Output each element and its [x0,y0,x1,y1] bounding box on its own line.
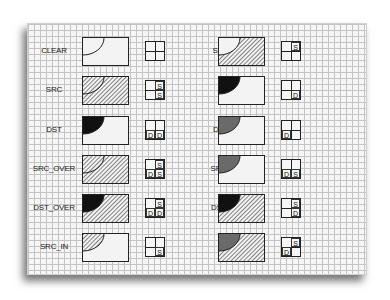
quadrant-br: D [291,208,300,217]
quadrant-br: S [155,247,164,256]
quadrant-bl: D [146,208,155,217]
quadrant-br [291,51,300,60]
region-quadrant-icon: D [281,120,301,140]
quadrant-br: D [291,90,300,99]
region-quadrant-icon: S [145,237,165,257]
quadrant-tr: S [155,160,164,169]
rule-label: SRC [30,85,78,94]
region-quadrant-icon: DD [145,120,165,140]
quadrant-br: D [155,208,164,217]
quadrant-tl [282,238,291,247]
region-quadrant-icon: SS [145,80,165,100]
rule-label: DST_OVER [30,203,78,212]
quadrant-tr [291,160,300,169]
composite-preview [218,155,265,184]
quadrant-tl [282,42,291,51]
quadrant-tr: S [155,81,164,90]
quadrant-bl [146,247,155,256]
composite-preview [82,37,129,66]
rule-label: SRC_IN [30,242,78,251]
quadrant-bl: D [282,169,291,178]
region-quadrant-icon: SD [281,237,301,257]
region-quadrant-icon [145,41,165,61]
quadrant-tl [146,42,155,51]
quadrant-br: D [155,130,164,139]
quadrant-bl: D [146,169,155,178]
quadrant-tl [146,81,155,90]
quadrant-tr: S [291,42,300,51]
quadrant-bl: D [282,247,291,256]
rule-label: DST [30,125,78,134]
composite-preview [218,116,265,145]
diagram-board [27,23,367,275]
composite-preview [82,76,129,105]
quadrant-tl [146,160,155,169]
quadrant-bl [146,51,155,60]
quadrant-bl [282,208,291,217]
region-quadrant-icon: D [281,80,301,100]
quadrant-tl [282,199,291,208]
rule-label: CLEAR [30,46,78,55]
quadrant-br: S [291,169,300,178]
quadrant-tr: S [291,238,300,247]
quadrant-tl [282,121,291,130]
quadrant-tl [282,81,291,90]
region-quadrant-icon: SDS [145,159,165,179]
region-quadrant-icon: S [281,41,301,61]
quadrant-bl [146,90,155,99]
quadrant-bl: D [146,130,155,139]
quadrant-tr [155,42,164,51]
quadrant-tr [155,121,164,130]
region-quadrant-icon: DS [281,159,301,179]
quadrant-tr [291,81,300,90]
quadrant-tl [146,199,155,208]
composite-preview [82,233,129,262]
composite-preview [218,37,265,66]
quadrant-br [291,247,300,256]
composite-preview [82,155,129,184]
region-quadrant-icon: SDD [145,198,165,218]
quadrant-tr: S [291,199,300,208]
quadrant-br: S [155,169,164,178]
quadrant-bl: D [282,130,291,139]
quadrant-br [155,51,164,60]
quadrant-tl [146,121,155,130]
composite-preview [82,194,129,223]
quadrant-br: S [155,90,164,99]
composite-preview [218,194,265,223]
composite-preview [82,116,129,145]
quadrant-bl [282,51,291,60]
quadrant-bl [282,90,291,99]
region-quadrant-icon: SD [281,198,301,218]
quadrant-tr [291,121,300,130]
quadrant-tl [282,160,291,169]
quadrant-tr [155,238,164,247]
quadrant-tl [146,238,155,247]
rule-label: SRC_OVER [30,164,78,173]
quadrant-br [291,130,300,139]
composite-preview [218,76,265,105]
quadrant-tr: S [155,199,164,208]
composite-preview [218,233,265,262]
